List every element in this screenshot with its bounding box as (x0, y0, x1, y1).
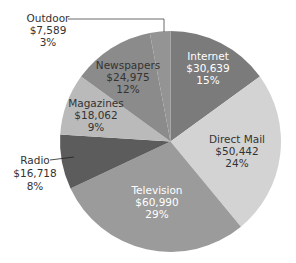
radio-percent: 8% (27, 180, 44, 192)
direct-mail-name: Direct Mail (209, 133, 265, 145)
newspapers-value: $24,975 (106, 71, 149, 83)
television-percent: 29% (145, 208, 168, 220)
radio-value: $16,718 (13, 167, 56, 179)
internet-percent: 15% (196, 74, 219, 86)
outdoor-leader-line (68, 19, 164, 32)
newspapers-percent: 12% (116, 83, 139, 95)
outdoor-value: $7,589 (30, 24, 67, 36)
internet-value: $30,639 (186, 62, 229, 74)
outdoor-percent: 3% (40, 36, 57, 48)
radio-name: Radio (20, 154, 50, 166)
slice-label-outdoor: Outdoor $7,589 3% (27, 12, 71, 48)
direct-mail-value: $50,442 (215, 145, 258, 157)
television-value: $60,990 (135, 196, 178, 208)
magazines-name: Magazines (68, 97, 124, 109)
magazines-value: $18,062 (74, 109, 117, 121)
magazines-percent: 9% (88, 121, 105, 133)
newspapers-name: Newspapers (96, 59, 160, 71)
outdoor-name: Outdoor (27, 12, 71, 24)
direct-mail-percent: 24% (225, 157, 248, 169)
television-name: Television (130, 184, 182, 196)
pie-chart: Internet $30,639 15% Direct Mail $50,442… (0, 0, 296, 263)
internet-name: Internet (187, 50, 229, 62)
